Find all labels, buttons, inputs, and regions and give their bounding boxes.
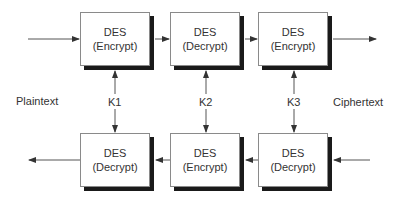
- box-operation: (Decrypt): [81, 160, 149, 174]
- box-name: DES: [171, 146, 239, 160]
- des-decrypt-box-2: DES (Decrypt): [170, 12, 240, 66]
- box-operation: (Encrypt): [171, 160, 239, 174]
- des-decrypt-box-bottom-1: DES (Decrypt): [80, 133, 150, 187]
- des-encrypt-box-1: DES (Encrypt): [80, 12, 150, 66]
- box-operation: (Decrypt): [171, 39, 239, 53]
- des-encrypt-box-3: DES (Encrypt): [258, 12, 328, 66]
- key-k3-label: K3: [287, 96, 300, 108]
- box-operation: (Encrypt): [81, 39, 149, 53]
- box-name: DES: [81, 25, 149, 39]
- box-name: DES: [81, 146, 149, 160]
- key-k2-label: K2: [199, 96, 212, 108]
- box-name: DES: [259, 146, 327, 160]
- key-k1-label: K1: [108, 96, 121, 108]
- box-operation: (Encrypt): [259, 39, 327, 53]
- ciphertext-label: Ciphertext: [333, 96, 383, 108]
- plaintext-label: Plaintext: [16, 95, 58, 107]
- box-name: DES: [171, 25, 239, 39]
- box-name: DES: [259, 25, 327, 39]
- des-encrypt-box-bottom-2: DES (Encrypt): [170, 133, 240, 187]
- box-operation: (Decrypt): [259, 160, 327, 174]
- des-decrypt-box-bottom-3: DES (Decrypt): [258, 133, 328, 187]
